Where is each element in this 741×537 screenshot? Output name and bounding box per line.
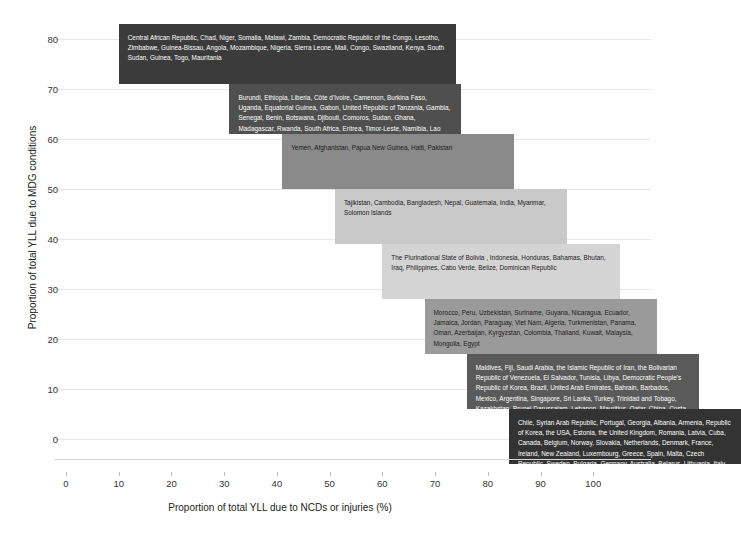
band-country-list: The Plurinational State of Bolivia , Ind… [391,253,610,273]
country-group-band: Burundi, Ethiopia, Liberia, Côte d'Ivoir… [229,84,461,134]
country-group-band: Chile, Syrian Arab Republic, Portugal, G… [509,409,741,464]
band-country-list: Morocco, Peru, Uzbekistan, Suriname, Guy… [434,308,648,349]
x-tick-label: 50 [310,478,350,489]
x-tick-mark [593,472,594,476]
band-country-list: Maldives, Fiji, Saudi Arabia, the Islami… [476,363,690,409]
y-tick-label: 20 [18,334,58,345]
country-group-band: Central African Republic, Chad, Niger, S… [119,24,456,84]
band-country-list: Central African Republic, Chad, Niger, S… [128,33,447,64]
y-tick-label: 30 [18,284,58,295]
x-tick-mark [119,472,120,476]
x-tick-mark [435,472,436,476]
x-tick-label: 10 [99,478,139,489]
country-group-band: Morocco, Peru, Uzbekistan, Suriname, Guy… [425,299,657,354]
x-tick-mark [488,472,489,476]
x-tick-label: 30 [204,478,244,489]
band-country-list: Tajikistan, Cambodia, Bangladesh, Nepal,… [344,198,558,218]
x-tick-mark [330,472,331,476]
y-tick-label: 70 [18,84,58,95]
x-axis-line [54,459,651,460]
x-tick-mark [66,472,67,476]
band-country-list: Burundi, Ethiopia, Liberia, Côte d'Ivoir… [238,93,452,134]
country-group-band: Yemen, Afghanistan, Papua New Guinea, Ha… [282,134,514,189]
x-axis-ticks: 0102030405060708090100 [66,472,666,488]
x-tick-mark [171,472,172,476]
y-tick-label: 60 [18,134,58,145]
y-tick-label: 80 [18,34,58,45]
band-country-list: Chile, Syrian Arab Republic, Portugal, G… [518,418,732,464]
x-tick-mark [382,472,383,476]
x-tick-label: 100 [573,478,613,489]
x-tick-mark [541,472,542,476]
country-group-band: Maldives, Fiji, Saudi Arabia, the Islami… [467,354,699,409]
x-tick-label: 20 [151,478,191,489]
y-tick-label: 10 [18,384,58,395]
y-tick-label: 40 [18,234,58,245]
y-axis-title: Proportion of total YLL due to MDG condi… [27,28,38,428]
country-group-band: The Plurinational State of Bolivia , Ind… [382,244,619,299]
y-tick-label: 50 [18,184,58,195]
x-tick-label: 40 [257,478,297,489]
plot-area: Central African Republic, Chad, Niger, S… [66,19,646,459]
band-country-list: Yemen, Afghanistan, Papua New Guinea, Ha… [291,143,505,153]
x-tick-label: 0 [46,478,86,489]
x-tick-label: 60 [362,478,402,489]
country-group-band: Tajikistan, Cambodia, Bangladesh, Nepal,… [335,189,567,244]
x-tick-label: 80 [468,478,508,489]
x-tick-label: 70 [415,478,455,489]
x-tick-mark [224,472,225,476]
x-tick-label: 90 [521,478,561,489]
x-axis-title: Proportion of total YLL due to NCDs or i… [0,502,560,513]
x-tick-mark [277,472,278,476]
y-tick-label: 0 [18,434,58,445]
